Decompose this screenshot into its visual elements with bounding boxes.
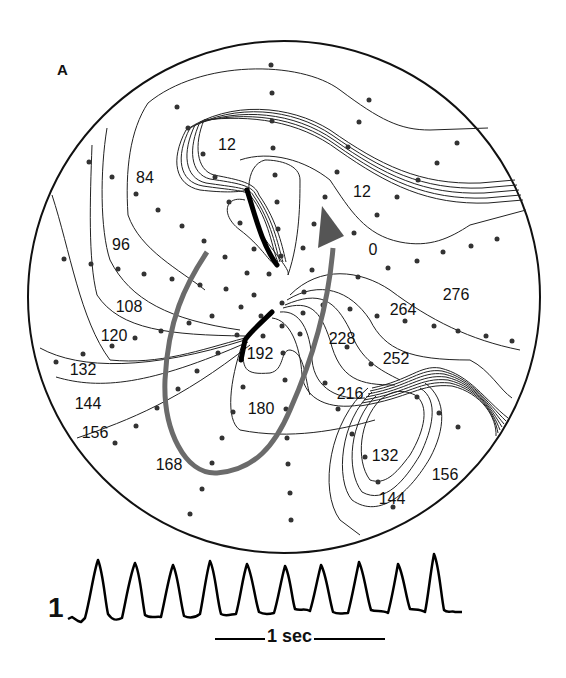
- isochrone-label: 144: [379, 490, 406, 507]
- isochrone-label: 96: [112, 236, 130, 253]
- electrogram-trace: [68, 554, 462, 622]
- isochrone-label: 228: [329, 330, 356, 347]
- isochrone-label: 120: [101, 327, 128, 344]
- isochrone-label: 264: [390, 301, 417, 318]
- isochrone-label: 12: [218, 136, 236, 153]
- trace-lead-label: 1: [48, 592, 64, 624]
- reentry-arrowhead-icon: [318, 206, 344, 248]
- isochrone-label: 156: [82, 424, 109, 441]
- isochrone-label: 180: [248, 400, 275, 417]
- isochrone-label: 216: [337, 385, 364, 402]
- isochrone-label: 132: [372, 447, 399, 464]
- isochrone-label: 0: [369, 241, 378, 258]
- activation-map-svg: 1284129602762641081202281922521322161441…: [0, 0, 566, 678]
- isochrone-label: 132: [70, 361, 97, 378]
- isochrone-label: 144: [75, 395, 102, 412]
- isochrone-label: 276: [443, 286, 470, 303]
- isochrone-label: 192: [247, 345, 274, 362]
- scale-bar-label: 1 sec: [265, 626, 314, 647]
- isochrone-label: 168: [156, 456, 183, 473]
- isochrone-label: 156: [432, 466, 459, 483]
- isochrone-label: 252: [383, 350, 410, 367]
- isochrone-label: 84: [136, 169, 154, 186]
- isochrone-label: 12: [353, 183, 371, 200]
- isochrone-label: 108: [116, 298, 143, 315]
